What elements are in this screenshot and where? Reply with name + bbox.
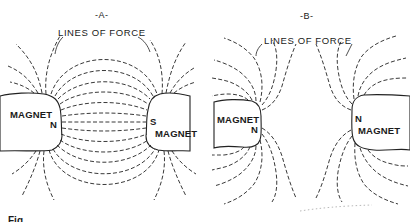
panel-b-right-pole-label: N [355, 114, 362, 124]
panel-b-right-magnet-label: MAGNET [358, 126, 400, 136]
panel-a-right-magnet-label: MAGNET [155, 129, 197, 139]
panel-a-leader-left [55, 37, 63, 54]
panel-b-left-pole-label: N [251, 125, 258, 135]
panel-a-left-magnet-label: MAGNET [10, 110, 52, 120]
panel-b-title: -B- [300, 12, 314, 21]
panel-a-leader-right [138, 37, 150, 52]
magnetic-field-figure: -A- LINES OF FORCE MAGNET N S MAGNET -B-… [0, 0, 410, 222]
panel-b-lines-of-force-label: LINES OF FORCE [264, 36, 352, 46]
panel-b-leader-left [256, 44, 262, 56]
figure-caption-partial: Fig. [8, 215, 26, 222]
panel-a-lines-of-force-label: LINES OF FORCE [58, 28, 146, 38]
panel-a-left-pole-label: N [50, 120, 57, 130]
panel-a-title: -A- [95, 11, 109, 20]
panel-a-right-pole-label: S [150, 117, 156, 127]
